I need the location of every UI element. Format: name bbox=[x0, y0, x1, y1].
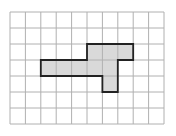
shaded-cell bbox=[72, 60, 87, 76]
shaded-cell bbox=[102, 76, 117, 92]
shaded-cell bbox=[87, 44, 102, 60]
shaded-cell bbox=[56, 60, 71, 76]
grid-diagram bbox=[0, 0, 176, 136]
shaded-cell bbox=[118, 44, 133, 60]
shaded-cell bbox=[102, 44, 117, 60]
shaded-cell bbox=[41, 60, 56, 76]
shaded-cell bbox=[102, 60, 117, 76]
shaded-cell bbox=[87, 60, 102, 76]
